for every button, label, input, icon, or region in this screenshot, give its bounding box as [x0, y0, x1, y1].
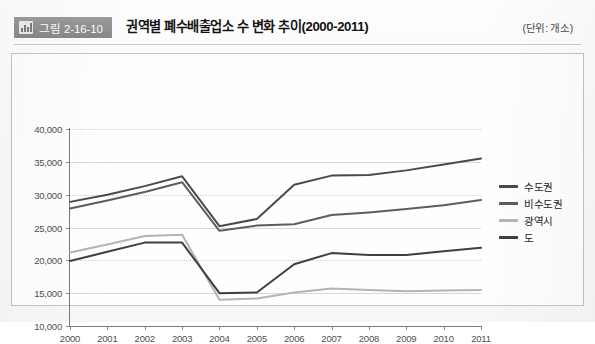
legend-item-label: 광역시 — [524, 213, 553, 228]
x-axis-tick-label: 2005 — [237, 333, 277, 344]
x-axis-tick-label: 2010 — [424, 333, 464, 344]
y-axis-tick-label: 10,000 — [14, 321, 62, 332]
x-axis-tick-label: 2007 — [312, 333, 352, 344]
x-axis-tick-label: 2003 — [162, 333, 202, 344]
legend-item-label: 비수도권 — [524, 196, 563, 211]
legend-color-swatch — [499, 236, 518, 239]
legend-color-swatch — [499, 219, 518, 222]
series-line-광역시 — [70, 235, 481, 300]
legend-color-swatch — [499, 202, 518, 205]
x-axis-tick-label: 2004 — [199, 333, 239, 344]
figure-number-badge: 그림 2-16-10 — [14, 17, 112, 38]
legend-item-광역시[interactable]: 광역시 — [499, 212, 589, 229]
x-axis-tick-label: 2008 — [349, 333, 389, 344]
x-axis-tick-label: 2002 — [125, 333, 165, 344]
legend-item-비수도권[interactable]: 비수도권 — [499, 195, 589, 212]
series-line-수도권 — [70, 159, 481, 227]
legend-color-swatch — [499, 185, 518, 188]
legend-item-label: 수도권 — [524, 179, 553, 194]
figure-number-label: 그림 2-16-10 — [39, 20, 103, 36]
bar-chart-icon — [19, 21, 33, 34]
chart-panel: 10,00015,00020,00025,00030,00035,00040,0… — [11, 53, 584, 306]
x-axis-tick-label: 2011 — [461, 333, 501, 344]
x-axis-tick-label: 2000 — [50, 333, 90, 344]
figure-header: 그림 2-16-10 권역별 폐수배출업소 수 변화 추이(2000-2011)… — [0, 14, 595, 46]
x-axis-line — [69, 326, 482, 327]
x-axis-tick-label: 2001 — [87, 333, 127, 344]
legend-item-label: 도 — [524, 230, 534, 245]
legend-item-수도권[interactable]: 수도권 — [499, 178, 589, 195]
chart-legend: 수도권비수도권광역시도 — [499, 178, 589, 246]
series-line-도 — [70, 243, 481, 294]
x-axis-tick-label: 2009 — [386, 333, 426, 344]
figure-title: 권역별 폐수배출업소 수 변화 추이(2000-2011) — [126, 16, 368, 35]
legend-item-도[interactable]: 도 — [499, 229, 589, 246]
header-divider — [14, 44, 581, 45]
x-axis-tick-label: 2006 — [274, 333, 314, 344]
figure-unit-label: (단위: 개소) — [523, 20, 573, 35]
